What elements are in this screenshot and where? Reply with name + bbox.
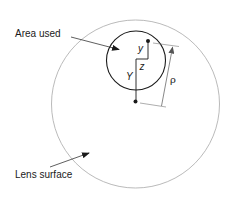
rho-extension-top <box>153 43 179 47</box>
rho-symbol: ρ <box>170 74 176 85</box>
area-used-label: Area used <box>15 28 61 39</box>
field-point-dot <box>146 39 150 43</box>
lens-surface-circle <box>52 20 220 188</box>
lens-center-dot <box>134 100 138 104</box>
lens-aperture-diagram: Area used Lens surface y z Y ρ <box>0 0 228 211</box>
big-y-symbol: Y <box>126 71 134 82</box>
z-symbol: z <box>139 61 145 72</box>
small-y-symbol: y <box>137 43 144 54</box>
lens-surface-label: Lens surface <box>15 169 73 180</box>
lens-surface-leader-arrow <box>50 153 89 167</box>
